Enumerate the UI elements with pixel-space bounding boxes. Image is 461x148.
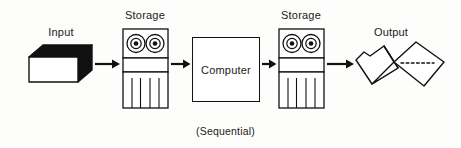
magnetic-tape-icon bbox=[122, 28, 169, 109]
arrow-computer-to-storage-2 bbox=[262, 58, 277, 70]
node-input bbox=[26, 43, 98, 85]
node-output bbox=[354, 38, 450, 96]
flowchart-diagram: Input Storage Storage Output bbox=[0, 0, 461, 148]
label-output: Output bbox=[362, 26, 420, 38]
diagram-caption: (Sequential) bbox=[196, 125, 255, 137]
label-storage-1: Storage bbox=[116, 9, 174, 21]
fanfold-paper-icon bbox=[354, 38, 450, 96]
label-computer: Computer bbox=[201, 64, 251, 76]
arrow-input-to-storage-1 bbox=[95, 58, 121, 70]
node-storage-2 bbox=[278, 28, 325, 109]
arrow-storage-2-to-output bbox=[327, 58, 355, 70]
magnetic-tape-icon bbox=[278, 28, 325, 109]
arrow-storage-1-to-computer bbox=[171, 58, 191, 70]
node-computer: Computer bbox=[192, 37, 260, 102]
label-storage-2: Storage bbox=[272, 9, 330, 21]
node-storage-1 bbox=[122, 28, 169, 109]
label-input: Input bbox=[32, 26, 90, 38]
card-deck-icon bbox=[26, 43, 98, 85]
